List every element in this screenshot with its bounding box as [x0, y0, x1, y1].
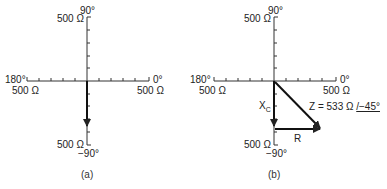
- diagram-a-left-mag: 500 Ω: [12, 85, 39, 96]
- diagram-b-bottom-angle: −90°: [266, 148, 287, 159]
- diagram-b-z-label: Z = 533 Ω /−45°: [309, 101, 380, 112]
- diagram-a-left-angle: 180°: [5, 74, 26, 85]
- diagram-b-caption: (b): [268, 169, 280, 180]
- diagram-a-right-angle: 0°: [153, 74, 163, 85]
- diagram-b-right-angle: 0°: [340, 74, 350, 85]
- diagram-a-top-mag: 500 Ω: [57, 13, 84, 24]
- diagram-a-bottom-angle: −90°: [78, 148, 99, 159]
- diagram-b-xc-label: XC: [259, 100, 271, 115]
- diagram-b-left-angle: 180°: [190, 74, 211, 85]
- diagram-a-caption: (a): [81, 169, 93, 180]
- diagram-b-right-mag: 500 Ω: [323, 85, 350, 96]
- diagram-a-right-mag: 500 Ω: [137, 85, 164, 96]
- diagram-b-left-mag: 500 Ω: [199, 85, 226, 96]
- diagram-b-r-label: R: [294, 133, 301, 144]
- diagram-b-top-mag: 500 Ω: [244, 13, 271, 24]
